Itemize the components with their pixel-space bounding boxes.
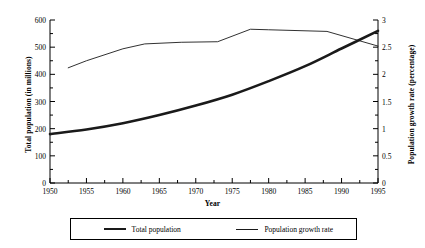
x-axis-tick-label: 1960: [115, 187, 130, 196]
y-axis-right-tick-label: 3: [382, 16, 408, 25]
x-axis-tick-label: 1975: [225, 187, 240, 196]
population-chart: Total population (in millions) Populatio…: [0, 0, 425, 248]
x-axis-tick-label: 1955: [79, 187, 94, 196]
legend-line-thick-icon: [104, 228, 126, 231]
legend-item-growth-rate: Population growth rate: [214, 225, 357, 234]
x-axis-tick-label: 1985: [298, 187, 313, 196]
plot-area: [0, 0, 425, 248]
y-axis-right-tick-label: 0: [382, 179, 408, 188]
legend-item-total-population: Total population: [71, 225, 214, 234]
x-axis-tick-label: 1950: [43, 187, 58, 196]
y-axis-left-tick-label: 500: [20, 43, 46, 52]
y-axis-right-tick-label: 2: [382, 70, 408, 79]
x-axis-tick-label: 1980: [261, 187, 276, 196]
y-axis-left-tick-label: 100: [20, 151, 46, 160]
chart-legend: Total population Population growth rate: [70, 218, 357, 240]
x-axis-title: Year: [0, 199, 425, 208]
y-axis-left-tick-label: 600: [20, 16, 46, 25]
x-axis-tick-label: 1995: [371, 187, 386, 196]
y-axis-right-tick-label: 1.5: [382, 97, 408, 106]
legend-label: Total population: [132, 225, 181, 234]
y-axis-left-tick-label: 200: [20, 124, 46, 133]
x-axis-tick-label: 1970: [188, 187, 203, 196]
x-axis-tick-label: 1965: [152, 187, 167, 196]
legend-line-thin-icon: [236, 229, 258, 230]
y-axis-right-tick-label: 1: [382, 124, 408, 133]
y-axis-right-tick-label: 2.5: [382, 43, 408, 52]
y-axis-left-tick-label: 300: [20, 97, 46, 106]
y-axis-left-tick-label: 400: [20, 70, 46, 79]
y-axis-right-tick-label: 0.5: [382, 151, 408, 160]
legend-label: Population growth rate: [264, 225, 333, 234]
x-axis-tick-label: 1990: [334, 187, 349, 196]
